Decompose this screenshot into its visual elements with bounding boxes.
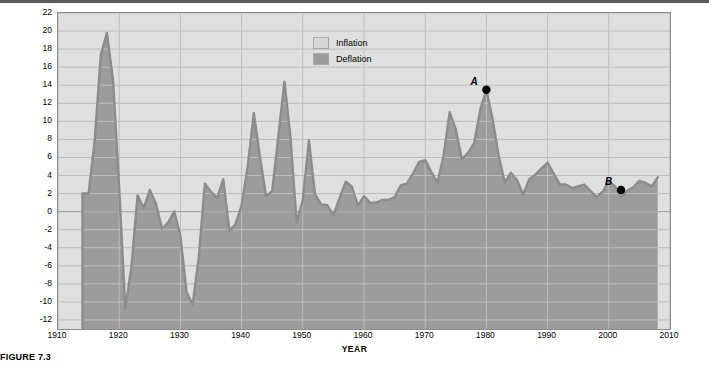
x-axis-tick: 1920: [109, 330, 128, 340]
legend-swatch-deflation-icon: [313, 53, 329, 65]
x-axis-title: YEAR: [0, 344, 709, 354]
chart-legend: Inflation Deflation: [313, 37, 372, 69]
y-axis-tick-labels: 2220181614121086420-2-4-6-8-10-12: [24, 12, 52, 328]
y-axis-tick: 22: [26, 7, 52, 17]
y-axis-tick: -6: [26, 260, 52, 270]
x-axis-tick: 1940: [231, 330, 250, 340]
x-axis-tick: 1970: [415, 330, 434, 340]
x-axis-tick: 2000: [598, 330, 617, 340]
x-axis-tick: 1990: [537, 330, 556, 340]
y-axis-tick: 2: [26, 188, 52, 198]
figure-caption: FIGURE 7.3: [0, 352, 51, 362]
y-axis-tick: 20: [26, 25, 52, 35]
y-axis-tick: 8: [26, 133, 52, 143]
annotation-label-b: B: [605, 176, 612, 187]
y-axis-tick: 6: [26, 151, 52, 161]
legend-label-inflation: Inflation: [336, 38, 368, 48]
chart-plot-frame: Inflation Deflation A B: [57, 12, 671, 330]
legend-label-deflation: Deflation: [336, 54, 372, 64]
y-axis-tick: 4: [26, 170, 52, 180]
legend-swatch-inflation-icon: [313, 37, 329, 49]
x-axis-tick: 1930: [170, 330, 189, 340]
y-axis-tick: 16: [26, 61, 52, 71]
y-axis-tick: 14: [26, 79, 52, 89]
x-axis-tick: 1950: [292, 330, 311, 340]
legend-item-inflation: Inflation: [313, 37, 372, 49]
y-axis-tick: -10: [26, 296, 52, 306]
y-axis-tick: -8: [26, 278, 52, 288]
x-axis-tick: 1980: [476, 330, 495, 340]
y-axis-tick: -12: [26, 314, 52, 324]
y-axis-title: CHANGE IN CONSUMER PRICE INDEX (percent): [2, 36, 24, 286]
top-divider-rule: [0, 0, 709, 3]
y-axis-tick: 12: [26, 97, 52, 107]
y-axis-tick: -2: [26, 224, 52, 234]
annotation-label-a: A: [470, 76, 477, 87]
legend-item-deflation: Deflation: [313, 53, 372, 65]
x-axis-tick: 1960: [354, 330, 373, 340]
y-axis-tick: 10: [26, 115, 52, 125]
y-axis-tick: -4: [26, 242, 52, 252]
y-axis-tick: 18: [26, 43, 52, 53]
y-axis-tick: 0: [26, 206, 52, 216]
x-axis-tick-labels: 1910192019301940195019601970198019902000…: [57, 330, 669, 344]
x-axis-tick: 2010: [660, 330, 679, 340]
x-axis-tick: 1910: [48, 330, 67, 340]
figure-container: CHANGE IN CONSUMER PRICE INDEX (percent)…: [0, 0, 709, 376]
